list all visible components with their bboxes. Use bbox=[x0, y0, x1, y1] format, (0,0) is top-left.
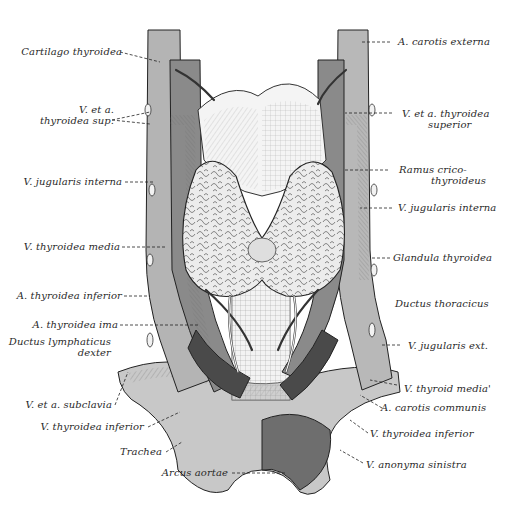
label-arcus-aortae: Arcus aortae bbox=[162, 467, 228, 478]
label-v-thyroidea-inferior-right: V. thyroidea inferior bbox=[370, 428, 474, 439]
label-trachea: Trachea bbox=[120, 446, 162, 457]
label-v-anonyma-sinistra: V. anonyma sinistra bbox=[366, 459, 467, 470]
label-a-carotis-externa: A. carotis externa bbox=[398, 36, 490, 47]
label-a-thyroidea-inferior: A. thyroidea inferior bbox=[17, 290, 122, 301]
label-v-et-a-thyroidea-superior: V. et a. thyroidea superior bbox=[402, 108, 489, 130]
label-ramus-cricothyroideus: Ramus crico- thyroideus bbox=[399, 164, 486, 186]
label-v-thyroidea-media-left: V. thyroidea media bbox=[24, 241, 120, 252]
label-line: Ramus crico- bbox=[399, 164, 486, 175]
label-a-carotis-communis: A. carotis communis bbox=[381, 402, 486, 413]
label-line: thyroidea sup. bbox=[40, 115, 114, 126]
label-ductus-thoracicus: Ductus thoracicus bbox=[395, 298, 489, 309]
label-glandula-thyroidea: Glandula thyroidea bbox=[393, 252, 492, 263]
label-v-thyroidea-inferior-left: V. thyroidea inferior bbox=[40, 421, 144, 432]
label-a-thyroidea-ima: A. thyroidea ima bbox=[33, 319, 118, 330]
label-line: Ductus lymphaticus bbox=[9, 336, 111, 347]
label-v-jugularis-interna-right: V. jugularis interna bbox=[398, 202, 496, 213]
label-v-jugularis-ext: V. jugularis ext. bbox=[408, 340, 488, 351]
label-line: V. et a. thyroidea bbox=[402, 108, 489, 119]
label-v-thyroid-media: V. thyroid media' bbox=[404, 383, 491, 394]
label-v-et-a-subclavia: V. et a. subclavia bbox=[25, 399, 112, 410]
label-v-et-a-thyroidea-sup: V. et a. thyroidea sup. bbox=[40, 104, 114, 126]
label-line: superior bbox=[402, 119, 489, 130]
label-v-jugularis-interna-left: V. jugularis interna bbox=[24, 176, 122, 187]
label-cartilago-thyroidea: Cartilago thyroidea bbox=[21, 46, 122, 57]
label-line: thyroideus bbox=[399, 175, 486, 186]
label-line: dexter bbox=[9, 347, 111, 358]
label-ductus-lymphaticus-dexter: Ductus lymphaticus dexter bbox=[9, 336, 111, 358]
label-line: V. et a. bbox=[40, 104, 114, 115]
